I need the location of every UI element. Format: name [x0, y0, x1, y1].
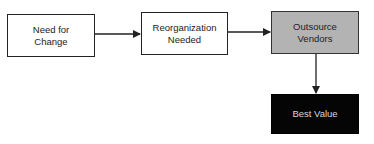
node-reorganization-needed: Reorganization Needed [141, 12, 228, 55]
node-label: Reorganization Needed [153, 22, 217, 46]
node-need-for-change: Need for Change [7, 14, 95, 57]
node-best-value: Best Value [271, 94, 359, 134]
node-label: Best Value [292, 108, 337, 120]
node-label: Outsource Vendors [293, 21, 337, 45]
node-label: Need for Change [33, 24, 69, 48]
node-outsource-vendors: Outsource Vendors [271, 11, 359, 54]
